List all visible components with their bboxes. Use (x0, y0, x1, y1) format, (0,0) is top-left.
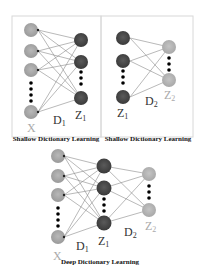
label-z2: Z2 (164, 88, 175, 103)
ellipsis-dots-icon (102, 197, 106, 213)
panel-deep: X D1 Z1 D2 Z2 Deep Dictionary Learning (51, 149, 156, 266)
caption-shallow-1: Shallow Dictionary Learning (13, 135, 100, 143)
node (116, 54, 130, 68)
caption-deep: Deep Dictionary Learning (61, 258, 140, 266)
caption-shallow-2: Shallow Dictionary Learning (105, 135, 192, 143)
ellipsis-dots-icon (29, 81, 33, 103)
panel-border (101, 16, 193, 137)
node (97, 181, 112, 196)
label-z1: Z1 (117, 106, 128, 121)
node (24, 63, 38, 77)
node (74, 91, 88, 105)
label-z2: Z2 (145, 219, 156, 234)
label-z1: Z1 (98, 234, 109, 249)
ellipsis-dots-icon (167, 56, 171, 72)
label-d1: D1 (76, 239, 89, 254)
node (116, 31, 130, 45)
hidden-nodes-z1 (74, 33, 88, 105)
label-d2: D2 (145, 94, 158, 109)
node (162, 73, 176, 87)
label-x: X (27, 121, 36, 135)
label-d2: D2 (124, 225, 137, 240)
label-z1: Z1 (75, 108, 86, 123)
node (74, 33, 88, 47)
node (97, 216, 112, 231)
node (74, 55, 88, 69)
ellipsis-dots-icon (79, 70, 83, 86)
node (142, 203, 156, 217)
panel-shallow-z1-to-z2: Z1 D2 Z2 Shallow Dictionary Learning (101, 16, 193, 143)
input-nodes-z1 (116, 31, 130, 104)
node (97, 159, 112, 174)
node (116, 90, 130, 104)
node (24, 105, 38, 119)
dictionary-learning-diagram: X D1 Z1 Shallow Dictionary Learning (0, 0, 203, 275)
node (24, 44, 38, 58)
ellipsis-dots-icon (147, 184, 151, 200)
input-nodes-x (51, 149, 65, 244)
input-nodes-x (24, 23, 39, 119)
ellipsis-dots-icon (56, 206, 60, 228)
node (24, 23, 38, 37)
ellipsis-dots-icon (121, 69, 125, 85)
node (142, 167, 156, 181)
panel-shallow-x-to-z1: X D1 Z1 Shallow Dictionary Learning (12, 16, 101, 143)
label-d1: D1 (53, 113, 66, 128)
node (162, 40, 176, 54)
